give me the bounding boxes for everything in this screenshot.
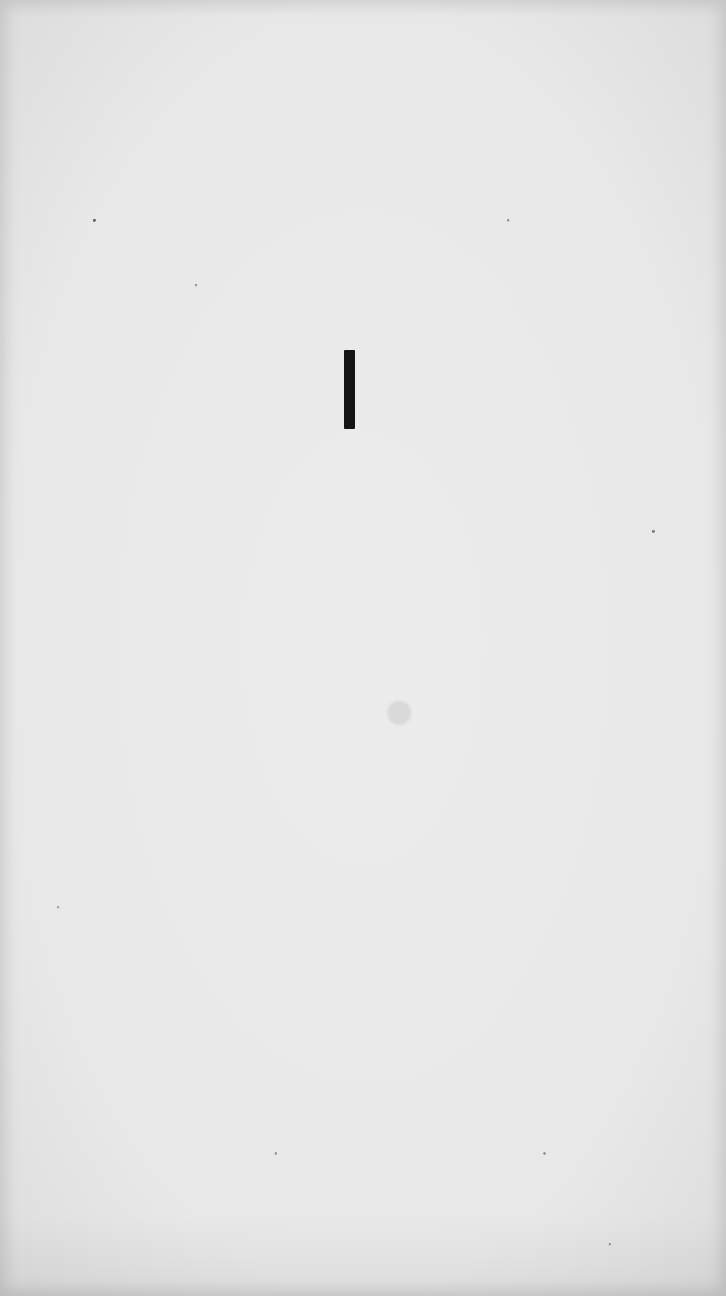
vertical-bar-mark: I bbox=[344, 350, 355, 429]
scanned-page: I bbox=[0, 0, 726, 1296]
mark-text: I bbox=[344, 350, 345, 351]
